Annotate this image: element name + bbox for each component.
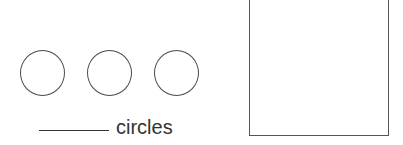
circle-1: [20, 50, 65, 96]
circle-2: [87, 50, 132, 96]
drawing-box[interactable]: [249, 0, 389, 136]
circle-3: [154, 50, 199, 96]
answer-blank-line[interactable]: [39, 130, 109, 131]
circles-label: circles: [116, 116, 173, 138]
